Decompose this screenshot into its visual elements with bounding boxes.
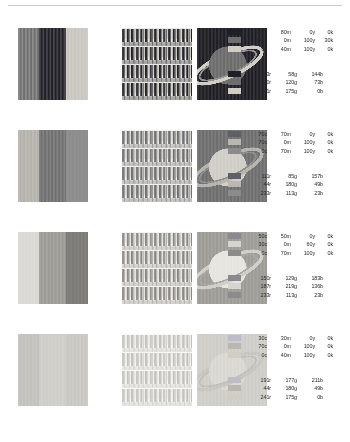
legend-color-swatch [228, 46, 241, 52]
legend-row: 0r120g73b [228, 79, 350, 86]
legend-row: 0c70m100y0k [228, 249, 350, 256]
legend-color-swatch [228, 394, 241, 400]
legend-value-k: 0k [315, 343, 333, 349]
legend-value-c: 100c [245, 29, 267, 35]
legend-value-c: 0c [245, 250, 267, 256]
legend-row: 30c30m0y0k [228, 334, 350, 341]
legend-row: 100c80m0y0k [228, 28, 350, 35]
rgb-legend: 191r177g211b44r180g49b241r175g0b [228, 376, 350, 402]
legend-value-y: 100y [291, 352, 315, 358]
legend-color-swatch [228, 250, 241, 256]
legend-color-swatch [228, 173, 241, 179]
legend-value-c: 50c [245, 233, 267, 239]
legend-value-k: 0k [315, 46, 333, 52]
legend-value-r: 233r [245, 292, 271, 298]
bands-panel [18, 28, 88, 100]
legend-row: 0c40m100y0k [228, 45, 350, 52]
legend-row: 30c0m60y0k [228, 241, 350, 248]
top-divider [8, 5, 342, 6]
legend-value-r: 111r [245, 173, 271, 179]
legend-row: 233r113g23b [228, 189, 350, 196]
legend-value-g: 175g [271, 394, 297, 400]
legend-value-r: 191r [245, 377, 271, 383]
legend-value-m: 70m [267, 148, 291, 154]
legend-value-m: 40m [267, 46, 291, 52]
legend-value-g: 113g [271, 292, 297, 298]
legend-value-k: 0k [315, 139, 333, 145]
legend-color-swatch [228, 275, 241, 281]
cmyk-legend: 30c30m0y0k70c0m100y0k0c40m100y0k [228, 334, 350, 360]
legend-color-swatch [228, 131, 241, 137]
legend-value-r: 44r [245, 385, 271, 391]
stripes-panel [122, 130, 192, 202]
legend-row: 100c0m100y30k [228, 37, 350, 44]
rgb-legend: 150r129g183b187r219g136b233r113g23b [228, 274, 350, 300]
legend-row: 44r180g49b [228, 385, 350, 392]
legend-value-g: 177g [271, 377, 297, 383]
legend-value-y: 0y [291, 131, 315, 137]
legend-value-r: 241r [245, 88, 271, 94]
legend-value-g: 58g [271, 71, 297, 77]
legend-value-b: 49b [297, 385, 323, 391]
legend-value-y: 100y [291, 250, 315, 256]
legend-value-r: 0r [245, 79, 271, 85]
legend-value-b: 144b [297, 71, 323, 77]
legend-row: 241r175g0b [228, 393, 350, 400]
legend-value-g: 129g [271, 275, 297, 281]
legend-value-b: 136b [297, 283, 323, 289]
legend-row: 50c50m0y0k [228, 232, 350, 239]
legend-color-swatch [228, 292, 241, 298]
legend-value-c: 70c [245, 131, 267, 137]
legend-row: 191r177g211b [228, 376, 350, 383]
legend-row: 111r85g157b [228, 172, 350, 179]
legend-color-swatch [228, 37, 241, 43]
legend-value-b: 49b [297, 181, 323, 187]
legend-color-swatch [228, 241, 241, 247]
legend-value-c: 100c [245, 37, 267, 43]
legend-color-swatch [228, 233, 241, 239]
legend-value-k: 0k [315, 131, 333, 137]
rgb-legend: 53r58g144b0r120g73b241r175g0b [228, 70, 350, 96]
legend-color-swatch [228, 283, 241, 289]
legend-value-m: 0m [267, 343, 291, 349]
legend-value-c: 0c [245, 46, 267, 52]
legend-value-k: 0k [315, 233, 333, 239]
stripes-panel [122, 28, 192, 100]
legend-value-k: 0k [315, 29, 333, 35]
legend-color-swatch [228, 343, 241, 349]
legend-row: 70c70m0y0k [228, 130, 350, 137]
stripes-panel [122, 334, 192, 406]
legend-color-swatch [228, 148, 241, 154]
legend-value-m: 50m [267, 233, 291, 239]
legend-color-swatch [228, 79, 241, 85]
legend-value-b: 23b [297, 292, 323, 298]
legend-row: 187r219g136b [228, 283, 350, 290]
legend-color-swatch [228, 385, 241, 391]
legend-value-c: 70c [245, 343, 267, 349]
legend-value-k: 0k [315, 241, 333, 247]
legend-color-swatch [228, 352, 241, 358]
legend-color-swatch [228, 71, 241, 77]
legend-row: 0c40m100y0k [228, 351, 350, 358]
test-row: 70c70m0y0k70c0m100y0k0c70m100y0k111r85g1… [0, 130, 350, 232]
legend-value-m: 0m [267, 139, 291, 145]
legend-value-y: 0y [291, 335, 315, 341]
legend-row: 233r113g23b [228, 291, 350, 298]
legend-value-b: 23b [297, 190, 323, 196]
legend-row: 0c70m100y0k [228, 147, 350, 154]
legend-value-m: 70m [267, 131, 291, 137]
legend-value-y: 100y [291, 139, 315, 145]
legend-value-b: 183b [297, 275, 323, 281]
legend-color-swatch [228, 335, 241, 341]
legend-value-r: 233r [245, 190, 271, 196]
cmyk-legend: 100c80m0y0k100c0m100y30k0c40m100y0k [228, 28, 350, 54]
legend-color-swatch [228, 139, 241, 145]
legend-color-swatch [228, 181, 241, 187]
legend-value-r: 150r [245, 275, 271, 281]
legend-value-b: 73b [297, 79, 323, 85]
legend-value-r: 187r [245, 283, 271, 289]
test-row: 100c80m0y0k100c0m100y30k0c40m100y0k53r58… [0, 28, 350, 130]
legend-color-swatch [228, 29, 241, 35]
legend-value-b: 0b [297, 394, 323, 400]
test-row: 50c50m0y0k30c0m60y0k0c70m100y0k150r129g1… [0, 232, 350, 334]
